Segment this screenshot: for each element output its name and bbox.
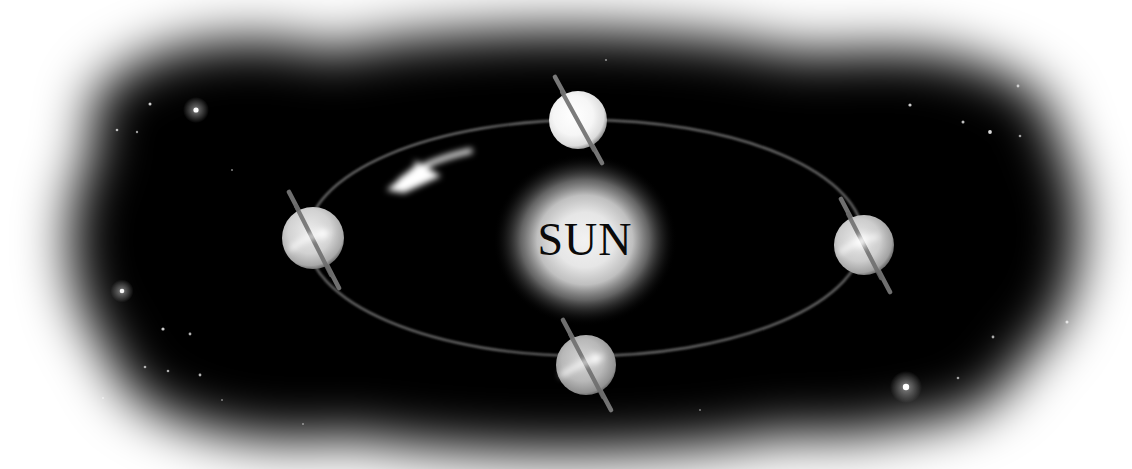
star xyxy=(111,280,134,303)
star xyxy=(605,59,607,61)
solar-orbit-diagram: SUN xyxy=(0,0,1132,469)
star xyxy=(1066,321,1069,324)
star xyxy=(144,366,147,369)
star xyxy=(161,327,164,330)
star xyxy=(102,397,104,399)
space-canvas xyxy=(0,0,1132,469)
star xyxy=(908,103,911,106)
star xyxy=(199,374,202,377)
star xyxy=(957,377,960,380)
star xyxy=(149,103,152,106)
star xyxy=(890,371,922,403)
star xyxy=(221,399,223,401)
star xyxy=(136,131,138,133)
star xyxy=(992,336,995,339)
star xyxy=(189,333,192,336)
space-field xyxy=(0,0,1132,469)
star xyxy=(183,97,209,123)
star xyxy=(988,130,992,134)
star xyxy=(1017,85,1020,88)
star xyxy=(1019,135,1022,138)
sun-glow xyxy=(493,154,677,326)
star xyxy=(231,169,233,171)
star xyxy=(167,370,170,373)
star xyxy=(116,129,119,132)
star xyxy=(302,423,304,425)
star xyxy=(962,121,965,124)
star xyxy=(699,409,701,411)
